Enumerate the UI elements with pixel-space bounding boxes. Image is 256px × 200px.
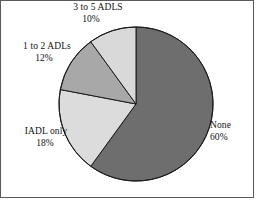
pie-label-3-to-5-adls-value: 10% [39, 14, 143, 26]
pie-label-3-to-5-adls-name: 3 to 5 ADLS [53, 2, 143, 14]
pie-label-3-to-5-adls: 3 to 5 ADLS 10% [53, 2, 143, 25]
pie-label-none-name: None [210, 120, 254, 132]
pie-label-1-to-2-adls: 1 to 2 ADLs 12% [4, 41, 90, 64]
pie-chart-graphic [0, 0, 256, 200]
pie-chart-screenshot: 3 to 5 ADLS 10% 1 to 2 ADLs 12% IADL onl… [0, 0, 256, 200]
pie-label-none: None 60% [210, 120, 254, 143]
pie-label-none-value: 60% [210, 132, 254, 144]
pie-label-iadl-only-name: IADL only [2, 126, 90, 138]
pie-label-iadl-only-value: 18% [0, 138, 90, 150]
pie-label-1-to-2-adls-value: 12% [0, 53, 90, 65]
pie-label-iadl-only: IADL only 18% [2, 126, 90, 149]
pie-label-1-to-2-adls-name: 1 to 2 ADLs [4, 41, 90, 53]
